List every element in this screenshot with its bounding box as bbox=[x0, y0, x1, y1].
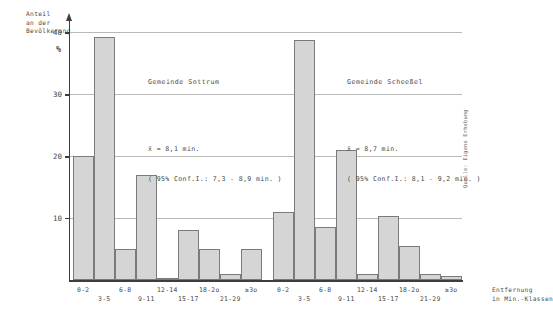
x-category-label: 18-2o bbox=[399, 286, 420, 294]
y-tick-mark bbox=[65, 32, 69, 33]
x-category-label: ≥3o bbox=[245, 286, 257, 294]
y-tick-label: 20 bbox=[32, 152, 62, 161]
bar bbox=[115, 249, 136, 280]
bar bbox=[178, 230, 199, 280]
y-tick-label: 10 bbox=[32, 214, 62, 223]
group-title-scheessel: Gemeinde Scheeßel bbox=[347, 78, 423, 86]
y-axis-line bbox=[69, 20, 71, 280]
mean-sottrum: x̄ = 8,1 min. bbox=[148, 144, 282, 154]
bar bbox=[315, 227, 336, 280]
x-axis-title: Entfernung in Min.-Klassen bbox=[492, 286, 553, 303]
bar bbox=[157, 278, 178, 280]
group-stats-scheessel: x̄ = 8,7 min. ( 95% Conf.I.: 8,1 - 9,2 m… bbox=[347, 124, 481, 204]
bar bbox=[378, 216, 399, 280]
x-axis-line bbox=[69, 280, 463, 282]
x-category-label: 0-2 bbox=[77, 286, 89, 294]
plot-area: 40302010 Gemeinde Sottrum x̄ = 8,1 min. … bbox=[70, 20, 462, 280]
bar bbox=[357, 274, 378, 280]
y-tick-label: 40 bbox=[32, 28, 62, 37]
y-tick-label: 30 bbox=[32, 90, 62, 99]
x-category-label: 3-5 bbox=[98, 295, 110, 303]
x-category-label: 0-2 bbox=[277, 286, 289, 294]
bar bbox=[241, 249, 262, 280]
x-category-label: 3-5 bbox=[298, 295, 310, 303]
x-category-label: 9-11 bbox=[138, 295, 155, 303]
bar bbox=[420, 274, 441, 280]
y-tick-labels: 40302010 bbox=[26, 20, 62, 280]
bar bbox=[220, 274, 241, 280]
x-category-label: 21-29 bbox=[220, 295, 241, 303]
x-category-label: 12-14 bbox=[357, 286, 378, 294]
x-category-label: 15-17 bbox=[178, 295, 199, 303]
group-stats-sottrum: x̄ = 8,1 min. ( 95% Conf.I.: 7,3 - 8,9 m… bbox=[148, 124, 282, 204]
gridline bbox=[70, 94, 462, 95]
x-category-label: 6-8 bbox=[119, 286, 131, 294]
x-category-label: 12-14 bbox=[157, 286, 178, 294]
gridline bbox=[70, 218, 462, 219]
y-tick-mark bbox=[65, 94, 69, 95]
gridline bbox=[70, 32, 462, 33]
bar bbox=[94, 37, 115, 280]
mean-scheessel: x̄ = 8,7 min. bbox=[347, 144, 481, 154]
x-category-label: 6-8 bbox=[319, 286, 331, 294]
y-tick-mark bbox=[65, 156, 69, 157]
bar bbox=[441, 276, 462, 280]
x-category-label: 15-17 bbox=[378, 295, 399, 303]
bar bbox=[294, 40, 315, 280]
bar bbox=[73, 156, 94, 280]
source-note: Quelle: Eigene Erhebung bbox=[462, 109, 468, 188]
x-category-label: ≥3o bbox=[445, 286, 457, 294]
ci-scheessel: ( 95% Conf.I.: 8,1 - 9,2 min. ) bbox=[347, 174, 481, 184]
x-category-label: 18-2o bbox=[199, 286, 220, 294]
ci-sottrum: ( 95% Conf.I.: 7,3 - 8,9 min. ) bbox=[148, 174, 282, 184]
bar bbox=[199, 249, 220, 280]
bar bbox=[273, 212, 294, 280]
x-category-label: 21-29 bbox=[420, 295, 441, 303]
group-title-sottrum: Gemeinde Sottrum bbox=[148, 78, 220, 86]
y-tick-mark bbox=[65, 218, 69, 219]
x-category-label: 9-11 bbox=[338, 295, 355, 303]
bar bbox=[399, 246, 420, 280]
y-axis-arrow-icon bbox=[66, 13, 72, 21]
